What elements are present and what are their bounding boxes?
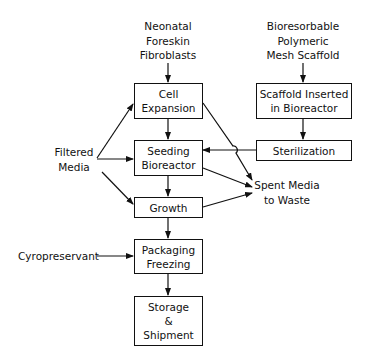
output-spent-media: Spent Media to Waste — [252, 178, 322, 207]
box-line: Bioreactor — [141, 158, 195, 172]
label-line: Fibroblasts — [130, 48, 206, 63]
label-line: Bioresorbable — [258, 19, 348, 34]
box-sterilization: Sterilization — [256, 140, 352, 161]
input-cryopreservant: Cyropreservant — [18, 249, 94, 264]
box-line: Packaging — [142, 243, 195, 257]
box-storage-shipment: Storage&Shipment — [134, 296, 203, 346]
box-line: Shipment — [143, 328, 193, 342]
label-line: Mesh Scaffold — [258, 48, 348, 63]
box-line: & — [143, 314, 193, 328]
label-line: Media — [52, 160, 96, 175]
box-line: Freezing — [142, 257, 195, 271]
label-line: to Waste — [252, 193, 322, 208]
box-line: Expansion — [141, 101, 195, 115]
box-packaging-freezing: PackagingFreezing — [134, 239, 203, 274]
box-growth: Growth — [134, 197, 203, 218]
box-scaffold-inserted: Scaffold Insertedin Bioreactor — [256, 83, 352, 119]
input-fibroblasts: Neonatal Foreskin Fibroblasts — [130, 19, 206, 63]
box-line: Storage — [143, 300, 193, 314]
label-line: Spent Media — [252, 178, 322, 193]
label-line: Neonatal — [130, 19, 206, 34]
box-seeding-bioreactor: SeedingBioreactor — [134, 140, 203, 176]
label-line: Filtered — [52, 145, 96, 160]
label-line: Polymeric — [258, 34, 348, 49]
label-line: Foreskin — [130, 34, 206, 49]
box-cell-expansion: CellExpansion — [134, 83, 203, 119]
input-scaffold: Bioresorbable Polymeric Mesh Scaffold — [258, 19, 348, 63]
input-filtered-media: Filtered Media — [52, 145, 96, 174]
box-line: Scaffold Inserted — [260, 87, 349, 101]
box-line: in Bioreactor — [260, 101, 349, 115]
box-line: Cell — [141, 87, 195, 101]
box-line: Seeding — [141, 144, 195, 158]
